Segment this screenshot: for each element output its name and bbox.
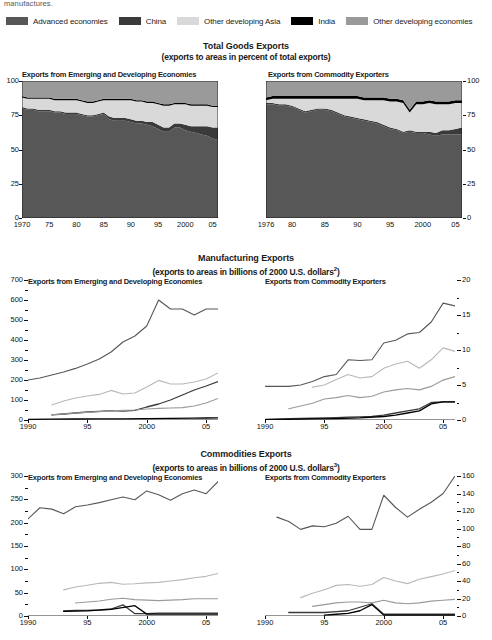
y-minor-tick-mark [25,290,28,291]
x-tick-mark [87,420,88,423]
y-tick-mark [24,616,28,617]
y-tick-label: 10 [462,346,470,354]
x-tick-label: 2000 [138,423,156,431]
legend-item-advanced-economies: Advanced economies [6,17,108,26]
y-tick-mark [457,494,461,495]
y-minor-tick-mark [25,534,28,535]
y-tick-label: 0 [467,214,471,222]
x-tick-mark [147,616,148,619]
x-tick-mark [443,420,444,423]
y-tick-label: 50 [467,146,475,154]
y-minor-tick-mark [25,370,28,371]
y-minor-tick-mark [25,558,28,559]
y-tick-label: 150 [2,542,23,550]
x-tick-label: 95 [78,423,96,431]
y-minor-tick-mark [25,511,28,512]
y-tick-label: 50 [2,146,19,154]
y-tick-label: 700 [2,276,23,284]
commodities-subtitle-text: (exports to areas in billions of 2000 U.… [152,463,333,473]
y-tick-label: 5 [462,381,466,389]
y-tick-label: 200 [2,376,23,384]
x-tick-label: 2000 [138,619,156,627]
y-tick-label: 50 [2,589,23,597]
x-tick-label: 2000 [375,423,393,431]
y-minor-tick-mark [457,590,460,591]
legend-swatch-advanced-economies [6,17,28,25]
y-tick-mark [457,564,461,565]
legend-label-advanced-economies: Advanced economies [33,17,108,26]
x-tick-label: 05 [204,221,222,229]
y-tick-label: 25 [467,180,475,188]
x-tick-mark [87,616,88,619]
y-minor-tick-mark [25,390,28,391]
legend-swatch-india [291,17,313,25]
y-tick-mark [19,115,22,116]
y-tick-label: 300 [2,472,23,480]
x-tick-mark [28,420,29,423]
y-tick-label: 100 [2,77,19,85]
x-tick-label: 95 [381,221,399,229]
y-tick-label: 40 [462,577,470,585]
y-tick-label: 0 [462,416,466,424]
y-minor-tick-mark [457,572,460,573]
y-tick-mark [19,81,22,82]
x-tick-label: 2000 [375,619,393,627]
x-tick-mark [206,616,207,619]
y-tick-label: 100 [462,525,475,533]
y-tick-label: 120 [462,507,475,515]
y-tick-label: 160 [462,472,475,480]
y-minor-tick-mark [457,537,460,538]
x-tick-mark [265,616,266,619]
y-tick-label: 100 [467,77,480,85]
x-tick-label: 80 [283,221,301,229]
y-minor-tick-mark [457,298,460,299]
y-tick-label: 60 [462,560,470,568]
y-tick-mark [24,400,28,401]
y-tick-mark [19,184,22,185]
commodities-subtitle-tail: ) [337,463,340,473]
x-tick-mark [384,616,385,619]
y-tick-label: 75 [2,111,19,119]
y-minor-tick-mark [25,330,28,331]
x-tick-mark [28,616,29,619]
y-tick-mark [24,499,28,500]
y-tick-mark [457,350,461,351]
y-minor-tick-mark [457,368,460,369]
x-tick-mark [265,420,266,423]
section-title-commodities-exports: Commodities Exports [0,449,492,460]
manufacturing-subtitle-text: (exports to areas in billions of 2000 U.… [152,267,333,277]
x-tick-label: 75 [40,221,58,229]
y-tick-mark [24,593,28,594]
x-tick-label: 90 [122,221,140,229]
x-tick-label: 1990 [19,619,37,627]
x-tick-label: 2000 [414,221,432,229]
x-tick-mark [324,616,325,619]
section-subtitle-manufacturing-exports: (exports to areas in billions of 2000 U.… [0,264,492,277]
y-tick-mark [457,616,461,617]
y-tick-mark [19,218,22,219]
y-tick-label: 400 [2,336,23,344]
legend-label-other-developing-asia: Other developing Asia [204,17,280,26]
x-tick-label: 1970 [13,221,31,229]
y-minor-tick-mark [457,485,460,486]
legend-item-china: China [119,17,166,26]
x-tick-label: 05 [434,423,452,431]
y-tick-mark [24,340,28,341]
x-tick-label: 95 [315,619,333,627]
y-tick-mark [463,81,466,82]
legend-label-china: China [146,17,166,26]
y-tick-mark [24,546,28,547]
y-tick-mark [457,546,461,547]
legend-swatch-china [119,17,141,25]
y-tick-label: 75 [467,111,475,119]
section-subtitle-total-goods-exports: (exports to areas in percent of total ex… [0,52,492,62]
x-tick-label: 95 [78,619,96,627]
legend-label-other-developing-economies: Other developing economies [373,17,472,26]
x-tick-label: 1976 [257,221,275,229]
y-tick-mark [463,218,466,219]
y-minor-tick-mark [457,502,460,503]
y-tick-label: 100 [2,396,23,404]
y-tick-label: 80 [462,542,470,550]
y-tick-label: 200 [2,519,23,527]
x-tick-label: 95 [149,221,167,229]
